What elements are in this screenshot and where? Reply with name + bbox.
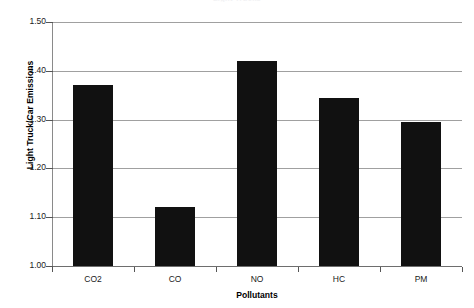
- plot-area: [52, 22, 462, 266]
- x-axis-tick: [216, 267, 217, 272]
- y-axis-tick: [46, 217, 53, 218]
- x-axis-category-label: NO: [216, 274, 298, 284]
- x-axis-tick: [134, 267, 135, 272]
- x-axis-title: Pollutants: [52, 290, 462, 300]
- bar[interactable]: [237, 61, 277, 266]
- y-axis-tick: [46, 71, 53, 72]
- y-axis-title: Light Truck/Car Emissions: [25, 35, 35, 195]
- chart-title: Light Trucks: [0, 0, 474, 2]
- y-axis-label: 1.20: [2, 163, 46, 172]
- x-axis-category-label: CO: [134, 274, 216, 284]
- y-axis-label-wrap: 1.20: [0, 163, 46, 172]
- y-axis-label: 1.40: [2, 66, 46, 75]
- gridline: [52, 22, 462, 23]
- y-axis-tick: [46, 22, 53, 23]
- y-axis-tick: [46, 168, 53, 169]
- bar[interactable]: [319, 98, 359, 266]
- x-axis-tick: [380, 267, 381, 272]
- x-axis-tick: [462, 267, 463, 272]
- y-axis-label: 1.50: [2, 17, 46, 26]
- gridline: [52, 266, 462, 267]
- y-axis-tick: [46, 120, 53, 121]
- y-axis-label-wrap: 1.40: [0, 66, 46, 75]
- x-axis-category-label: HC: [298, 274, 380, 284]
- y-axis-label-wrap: 1.30: [0, 115, 46, 124]
- bar[interactable]: [155, 207, 195, 266]
- bar[interactable]: [401, 122, 441, 266]
- y-axis-label: 1.30: [2, 115, 46, 124]
- bar[interactable]: [73, 85, 113, 266]
- x-axis-category-label: PM: [380, 274, 462, 284]
- y-axis-label: 1.10: [2, 212, 46, 221]
- y-axis-label-wrap: 1.00: [0, 261, 46, 270]
- y-axis-label: 1.00: [2, 261, 46, 270]
- x-axis-tick: [298, 267, 299, 272]
- x-axis-tick: [52, 267, 53, 272]
- bar-chart: Light Trucks 1.001.101.201.301.401.50 CO…: [0, 0, 474, 308]
- y-axis-label-wrap: 1.10: [0, 212, 46, 221]
- y-axis-label-wrap: 1.50: [0, 17, 46, 26]
- x-axis-category-label: CO2: [52, 274, 134, 284]
